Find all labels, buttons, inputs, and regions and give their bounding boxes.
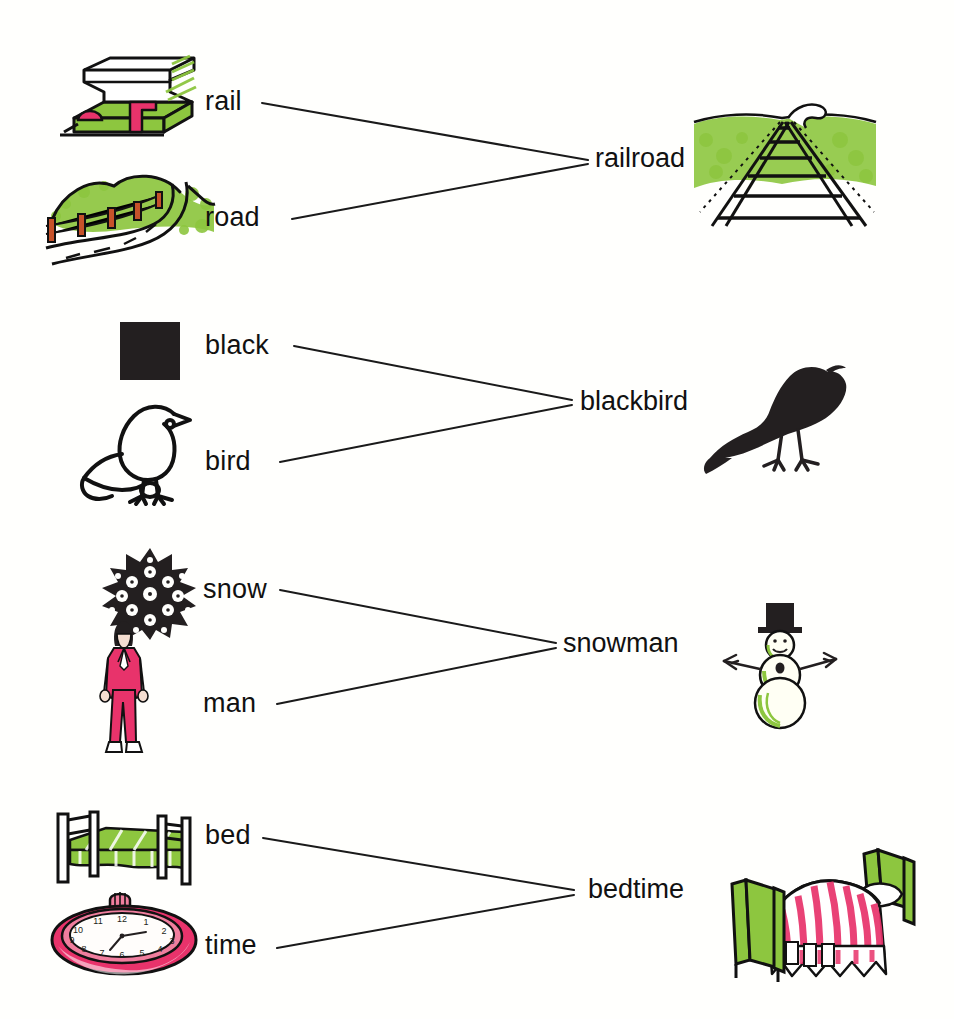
line-bird-to-blackbird — [280, 405, 572, 462]
word-road: road — [205, 204, 260, 231]
svg-text:7: 7 — [99, 948, 104, 958]
svg-text:5: 5 — [139, 948, 144, 958]
word-black: black — [205, 332, 269, 359]
svg-text:11: 11 — [93, 916, 102, 926]
railroad-track-icon — [690, 100, 880, 230]
bed-icon — [46, 806, 202, 888]
bed-sleeping-icon — [712, 838, 922, 983]
line-black-to-blackbird — [294, 346, 572, 400]
line-man-to-snowman — [277, 648, 556, 704]
svg-text:4: 4 — [157, 944, 162, 954]
word-time: time — [205, 932, 257, 959]
svg-text:9: 9 — [69, 935, 74, 945]
man-icon — [96, 618, 158, 758]
clock-icon: 12 1 2 3 4 5 6 7 8 9 10 11 — [48, 888, 200, 980]
line-road-to-railroad — [292, 164, 588, 219]
line-rail-to-railroad — [262, 103, 588, 160]
svg-text:6: 6 — [119, 950, 124, 960]
compound-blackbird: blackbird — [580, 388, 688, 415]
word-bird: bird — [205, 448, 251, 475]
svg-text:12: 12 — [117, 914, 127, 924]
blackbird-silhouette-icon — [700, 360, 880, 490]
svg-text:8: 8 — [81, 944, 86, 954]
svg-text:2: 2 — [161, 926, 166, 936]
svg-text:10: 10 — [73, 925, 83, 935]
svg-text:1: 1 — [143, 917, 148, 927]
compound-snowman: snowman — [563, 630, 679, 657]
word-snow: snow — [203, 576, 267, 603]
line-bed-to-bedtime — [263, 838, 574, 890]
road-icon — [42, 160, 217, 270]
bird-outline-icon — [78, 398, 208, 510]
line-time-to-bedtime — [277, 895, 574, 948]
compound-railroad: railroad — [595, 145, 685, 172]
black-square-icon — [118, 320, 182, 382]
word-bed: bed — [205, 822, 251, 849]
snowman-icon — [710, 595, 850, 725]
line-snow-to-snowman — [280, 590, 556, 643]
word-rail: rail — [205, 88, 242, 115]
compound-bedtime: bedtime — [588, 876, 684, 903]
word-man: man — [203, 690, 256, 717]
svg-text:3: 3 — [169, 936, 174, 946]
compound-words-worksheet: rail road railroad — [0, 0, 954, 1019]
rail-icon — [44, 40, 204, 150]
